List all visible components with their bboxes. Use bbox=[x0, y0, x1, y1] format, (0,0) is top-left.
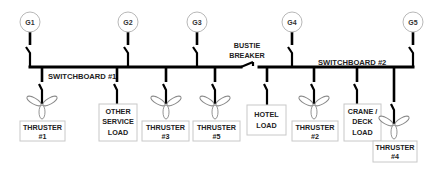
generator-label: G2 bbox=[123, 19, 132, 26]
generator-g2: G2 bbox=[118, 12, 138, 67]
generator-g4: G4 bbox=[282, 12, 302, 67]
svg-text:DECK: DECK bbox=[352, 117, 373, 126]
svg-text:#2: #2 bbox=[311, 132, 319, 141]
svg-text:THRUSTER: THRUSTER bbox=[146, 123, 186, 132]
bustie-label-line1: BUSTIE bbox=[234, 41, 261, 50]
svg-text:BREAKER: BREAKER bbox=[229, 51, 265, 60]
svg-text:SERVICE: SERVICE bbox=[102, 117, 134, 126]
generator-label: G4 bbox=[287, 19, 296, 26]
hotel-load: HOTEL LOAD bbox=[247, 67, 286, 135]
svg-text:THRUSTER: THRUSTER bbox=[23, 123, 63, 132]
svg-text:#5: #5 bbox=[213, 132, 221, 141]
svg-text:THRUSTER: THRUSTER bbox=[295, 123, 335, 132]
svg-text:LOAD: LOAD bbox=[352, 128, 372, 137]
svg-text:THRUSTER: THRUSTER bbox=[197, 123, 237, 132]
svg-text:LOAD: LOAD bbox=[256, 121, 276, 130]
thruster-3: THRUSTER #3 bbox=[142, 67, 189, 141]
thruster-2: THRUSTER #2 bbox=[292, 67, 338, 141]
svg-text:#4: #4 bbox=[391, 152, 399, 161]
svg-text:HOTEL: HOTEL bbox=[254, 110, 279, 119]
generator-g1: G1 bbox=[20, 12, 40, 67]
svg-text:#3: #3 bbox=[162, 132, 170, 141]
generator-g5: G5 bbox=[403, 12, 423, 67]
generator-label: G3 bbox=[192, 19, 201, 26]
svg-text:THRUSTER: THRUSTER bbox=[375, 143, 415, 152]
bustie-breaker: BUSTIE BREAKER bbox=[229, 41, 265, 67]
svg-text:OTHER: OTHER bbox=[105, 107, 131, 116]
power-distribution-diagram: BUSTIE BREAKER SWITCHBOARD #1 SWITCHBOAR… bbox=[0, 0, 439, 170]
generator-label: G1 bbox=[25, 19, 34, 26]
generator-g3: G3 bbox=[187, 12, 207, 67]
bustie-label-line2: BREAKER bbox=[229, 51, 265, 60]
thruster-5: THRUSTER #5 bbox=[193, 67, 240, 141]
crane-deck-load: CRANE / DECK LOAD bbox=[344, 67, 381, 141]
svg-text:BUSTIE: BUSTIE bbox=[234, 41, 261, 50]
svg-text:LOAD: LOAD bbox=[108, 128, 128, 137]
svg-text:CRANE /: CRANE / bbox=[348, 107, 378, 116]
svg-text:#1: #1 bbox=[39, 132, 47, 141]
generator-label: G5 bbox=[408, 19, 417, 26]
switchboard-1-label: SWITCHBOARD #1 bbox=[48, 72, 117, 81]
switchboard-2-label: SWITCHBOARD #2 bbox=[318, 58, 386, 67]
